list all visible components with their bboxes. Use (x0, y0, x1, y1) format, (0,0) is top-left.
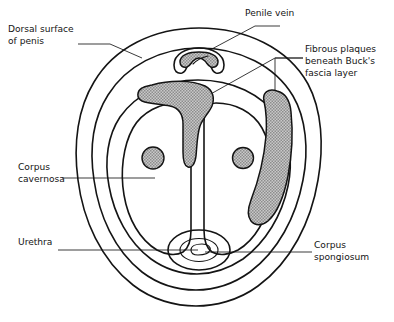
fibrous-plaque-right (248, 90, 292, 225)
label-fibrous-plaques: Fibrous plaques beneath Buck's fascia la… (305, 44, 379, 78)
urethra-lumen (191, 244, 210, 255)
label-urethra: Urethra (18, 237, 52, 247)
label-corpus-spongiosum-line2: spongiosum (314, 252, 369, 262)
penis-cross-section-diagram: Dorsal surface of penis Penile vein Fibr… (0, 0, 394, 322)
label-corpus-spongiosum: Corpus spongiosum (314, 240, 369, 262)
label-corpus-cavernosa-line1: Corpus (18, 162, 50, 172)
cavernosal-artery-left (142, 147, 164, 169)
label-fibrous-plaques-line2: beneath Buck's (305, 56, 375, 66)
label-fibrous-plaques-line1: Fibrous plaques (305, 44, 376, 54)
label-urethra-line1: Urethra (18, 237, 52, 247)
label-dorsal-surface-line1: Dorsal surface (8, 24, 74, 34)
label-penile-vein-line1: Penile vein (245, 8, 294, 18)
label-penile-vein: Penile vein (245, 8, 294, 18)
corpus-cavernosum-left (122, 103, 191, 254)
label-corpus-cavernosa: Corpus cavernosa (18, 162, 65, 184)
leader-dorsal-surface (78, 44, 142, 58)
anatomical-figure: Dorsal surface of penis Penile vein Fibr… (0, 0, 394, 322)
label-corpus-spongiosum-line1: Corpus (314, 240, 346, 250)
label-dorsal-surface: Dorsal surface of penis (8, 24, 77, 46)
label-corpus-cavernosa-line2: cavernosa (18, 174, 65, 184)
label-fibrous-plaques-line3: fascia layer (305, 68, 358, 78)
label-dorsal-surface-line2: of penis (8, 36, 44, 46)
cavernosal-artery-right (233, 148, 254, 169)
